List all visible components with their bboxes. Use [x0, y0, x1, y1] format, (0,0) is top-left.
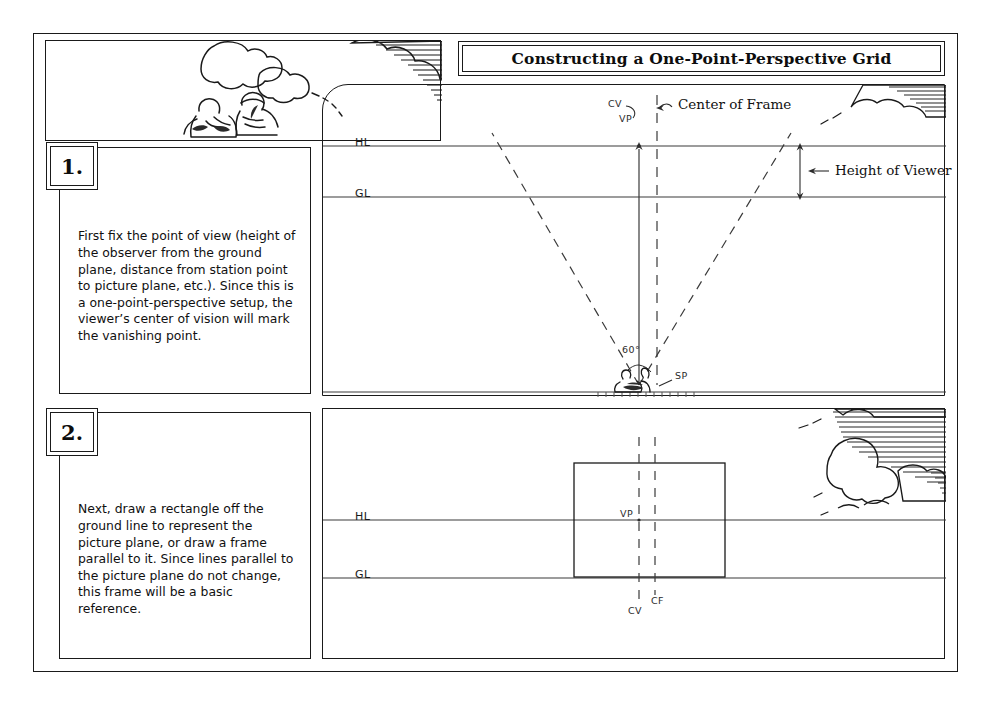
observer-figure-at-station-point: [615, 368, 650, 392]
picture-plane-frame-drawing-2: [323, 409, 946, 660]
label-vanishing-point-2: VP: [620, 508, 633, 519]
title-banner: Constructing a One-Point-Perspective Gri…: [458, 41, 945, 76]
label-center-of-vision-1: CV: [608, 98, 622, 109]
label-ground-line-2: GL: [355, 568, 371, 581]
cone-of-vision-right: [639, 133, 791, 385]
cone-of-vision-left: [492, 133, 639, 385]
label-center-of-frame-2: CF: [651, 595, 664, 606]
diagram-panel-2: HL GL VP CV CF: [322, 408, 945, 659]
diagram-panel-1: HL GL CV VP Center of Frame Height of Vi…: [322, 84, 945, 396]
page-canvas: Constructing a One-Point-Perspective Gri…: [0, 0, 993, 704]
page-title: Constructing a One-Point-Perspective Gri…: [512, 49, 892, 68]
step-number-2: 2.: [61, 420, 83, 445]
vanishing-point-dot-2: [637, 518, 640, 521]
step-number-tab-1: 1.: [46, 142, 98, 190]
label-ground-line-1: GL: [355, 187, 371, 200]
label-center-of-frame-1: Center of Frame: [678, 96, 791, 112]
label-horizon-line-2: HL: [355, 510, 371, 523]
corner-cloud-artwork-2: [799, 409, 946, 515]
step-text-2: Next, draw a rectangle off the ground li…: [78, 501, 296, 617]
center-of-frame-arrowhead: [656, 105, 664, 111]
step-text-1: First fix the point of view (height of t…: [78, 228, 296, 344]
sp-leader-line: [659, 380, 672, 386]
label-station-point: SP: [675, 370, 688, 381]
label-horizon-line-1: HL: [355, 136, 371, 149]
label-center-of-vision-2: CV: [628, 605, 642, 616]
label-height-of-viewer: Height of Viewer: [835, 162, 951, 178]
vanishing-point-dot-1: [637, 144, 641, 148]
label-cone-of-vision-angle: 60°: [622, 344, 640, 355]
step-number-tab-2: 2.: [46, 408, 98, 456]
step-number-1: 1.: [61, 154, 83, 179]
corner-cloud-artwork: [821, 85, 946, 124]
label-vanishing-point-1: VP: [619, 113, 632, 124]
